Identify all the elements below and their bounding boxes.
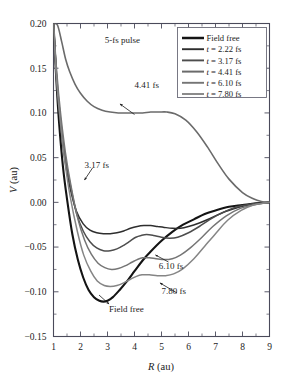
annotation-label: 6.10 fs [159, 261, 184, 271]
x-tick-label: 3 [105, 342, 110, 352]
legend-label-0: Field free [207, 33, 240, 43]
x-tick-label: 8 [240, 342, 245, 352]
y-axis-title-unit: (au) [8, 167, 20, 187]
annotation-label: 7.80 fs [161, 286, 186, 296]
plot-annotations: 5-fs pulse4.41 fs3.17 fs6.10 fs7.80 fsFi… [84, 35, 186, 314]
y-tick-label: 0.10 [30, 108, 47, 118]
y-tick-label: 0.05 [30, 153, 47, 163]
y-tick-label: 0.15 [30, 64, 47, 74]
y-tick-label: −0.10 [25, 287, 47, 297]
y-tick-label: 0.20 [30, 19, 47, 29]
x-axis-title: R (au) [147, 361, 174, 373]
x-tick-label: 6 [186, 342, 191, 352]
x-tick-label: 5 [159, 342, 164, 352]
potential-energy-curve-chart: 123456789 −0.15−0.10−0.050.000.050.100.1… [0, 0, 288, 388]
x-tick-label: 7 [213, 342, 218, 352]
figure-container: 123456789 −0.15−0.10−0.050.000.050.100.1… [0, 0, 288, 388]
y-axis-tick-labels: −0.15−0.10−0.050.000.050.100.150.20 [25, 19, 47, 342]
annotation-label: 5-fs pulse [105, 35, 140, 45]
x-tick-label: 9 [267, 342, 272, 352]
annotation-label: 3.17 fs [84, 160, 109, 170]
legend-label-5: t = 7.80 fs [207, 89, 243, 99]
y-tick-label: 0.00 [30, 198, 47, 208]
legend-label-2: t = 3.17 fs [207, 56, 243, 66]
annotation-label: 4.41 fs [134, 80, 159, 90]
legend[interactable]: Field freet = 2.22 fst = 3.17 fst = 4.41… [178, 28, 267, 100]
legend-label-4: t = 6.10 fs [207, 78, 243, 88]
annotation-leaders [85, 104, 178, 304]
y-tick-label: −0.15 [25, 332, 47, 342]
x-tick-label: 1 [51, 342, 56, 352]
y-axis-title: V (au) [8, 167, 20, 193]
x-axis-tick-labels: 123456789 [51, 342, 272, 352]
x-axis-title-unit: (au) [154, 361, 174, 373]
annotation-label: Field free [109, 304, 144, 314]
y-tick-label: −0.05 [25, 242, 47, 252]
legend-label-1: t = 2.22 fs [207, 44, 243, 54]
x-tick-label: 4 [132, 342, 137, 352]
legend-label-3: t = 4.41 fs [207, 67, 243, 77]
x-tick-label: 2 [78, 342, 83, 352]
